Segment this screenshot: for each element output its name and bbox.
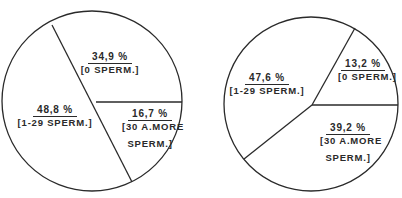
right-pie-outline [224, 17, 398, 191]
right-slice-1-29-sperm-percent: 47,6 % [245, 72, 289, 85]
left-pie-chart [2, 11, 182, 191]
right-slice-30-more-percent: 39,2 % [326, 122, 370, 135]
left-slice-30-more-desc-line1: [30 A.MORE [122, 121, 178, 133]
right-slice-1-29-sperm-desc: [1-29 SPERM.] [228, 85, 306, 97]
right-slice-0-sperm-desc: [0 SPERM.] [338, 71, 388, 83]
right-slice-0-sperm-label: 13,2 % [0 SPERM.] [338, 58, 388, 83]
left-slice-0-sperm-percent: 34,9 % [88, 51, 132, 64]
left-slice-1-29-sperm-percent: 48,8 % [33, 104, 77, 117]
right-slice-30-more-sperm-label: 39,2 % [30 A.MORE SPERM.] [320, 122, 376, 164]
right-pie-chart [224, 17, 398, 191]
left-slice-1-29-sperm-label: 48,8 % [1-29 SPERM.] [14, 104, 96, 129]
right-slice-30-more-desc-line2: SPERM.] [320, 152, 376, 164]
left-slice-0-sperm-desc: [0 SPERM.] [80, 64, 140, 76]
left-slice-1-29-sperm-desc: [1-29 SPERM.] [14, 117, 96, 129]
left-slice-0-sperm-label: 34,9 % [0 SPERM.] [80, 51, 140, 76]
right-slice-30-more-desc-line1: [30 A.MORE [320, 135, 376, 147]
left-slice-30-more-desc-line2: SPERM.] [122, 138, 178, 150]
left-slice-30-more-sperm-label: 16,7 % [30 A.MORE SPERM.] [122, 108, 178, 150]
left-pie-outline [2, 11, 182, 191]
right-slice-0-sperm-percent: 13,2 % [341, 58, 385, 71]
pie-charts-canvas [0, 0, 402, 198]
right-slice-1-29-sperm-label: 47,6 % [1-29 SPERM.] [228, 72, 306, 97]
left-slice-30-more-percent: 16,7 % [128, 108, 172, 121]
